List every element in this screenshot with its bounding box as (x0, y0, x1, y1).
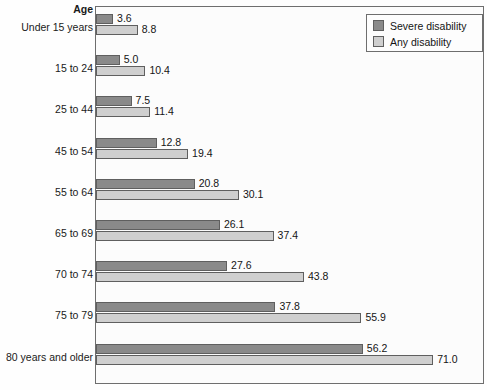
bar-value-label: 71.0 (437, 354, 457, 365)
legend-label-any-disability: Any disability (390, 36, 451, 48)
bar-severe (96, 96, 132, 106)
bar-value-label: 19.4 (192, 148, 212, 159)
plot-area: 3.68.85.010.47.511.412.819.420.830.126.1… (96, 7, 483, 383)
bar-any (96, 313, 361, 323)
bar-severe (96, 55, 120, 65)
bar-severe (96, 302, 275, 312)
bar-severe (96, 14, 113, 24)
legend-swatch-severe-disability (373, 20, 384, 31)
bar-any (96, 107, 150, 117)
bar-value-label: 11.4 (154, 106, 174, 117)
bar-value-label: 30.1 (243, 189, 263, 200)
bar-any (96, 355, 433, 365)
bar-value-label: 27.6 (231, 260, 251, 271)
chart-figure: Age Under 15 years15 to 2425 to 4445 to … (0, 0, 487, 390)
bar-any (96, 190, 239, 200)
axis-title-age: Age (73, 3, 93, 15)
bar-value-label: 37.4 (278, 230, 298, 241)
category-label: 15 to 24 (55, 63, 93, 74)
bar-value-label: 3.6 (117, 13, 132, 24)
legend-entry-any-disability: Any disability (373, 35, 451, 48)
category-label: 65 to 69 (55, 228, 93, 239)
legend-entry-severe-disability: Severe disability (373, 19, 466, 32)
bar-value-label: 5.0 (124, 54, 139, 65)
bar-any (96, 25, 138, 35)
bar-value-label: 37.8 (279, 301, 299, 312)
chart-legend: Severe disability Any disability (366, 14, 483, 52)
bar-value-label: 10.4 (149, 65, 169, 76)
bar-any (96, 231, 274, 241)
bar-value-label: 56.2 (367, 343, 387, 354)
bar-any (96, 272, 304, 282)
bar-severe (96, 220, 220, 230)
legend-swatch-any-disability (373, 36, 384, 47)
bar-value-label: 8.8 (142, 24, 157, 35)
legend-label-severe-disability: Severe disability (390, 20, 466, 32)
bar-value-label: 43.8 (308, 271, 328, 282)
category-label: 75 to 79 (55, 310, 93, 321)
category-label: 55 to 64 (55, 187, 93, 198)
category-label: Under 15 years (21, 22, 93, 33)
category-label: 70 to 74 (55, 269, 93, 280)
bar-severe (96, 138, 157, 148)
bar-value-label: 7.5 (136, 95, 151, 106)
bar-value-label: 55.9 (365, 312, 385, 323)
bar-severe (96, 261, 227, 271)
category-label-column: Age Under 15 years15 to 2425 to 4445 to … (0, 0, 93, 390)
bar-value-label: 12.8 (161, 137, 181, 148)
bar-severe (96, 344, 363, 354)
bar-any (96, 149, 188, 159)
category-label: 80 years and older (6, 352, 93, 363)
bar-severe (96, 179, 195, 189)
bar-any (96, 66, 145, 76)
category-label: 45 to 54 (55, 146, 93, 157)
bar-value-label: 26.1 (224, 219, 244, 230)
bar-value-label: 20.8 (199, 178, 219, 189)
category-label: 25 to 44 (55, 104, 93, 115)
